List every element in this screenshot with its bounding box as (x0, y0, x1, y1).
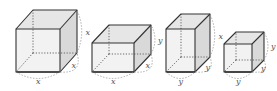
front-face (224, 44, 252, 72)
height-dimension-label: x (85, 28, 90, 37)
box-cube-y: yyy (224, 32, 276, 86)
depth-dimension-label: y (260, 64, 266, 73)
height-dimension-arc (210, 14, 215, 57)
boxes-diagram: xxxxxyyyxyyy (0, 0, 277, 91)
box-box-yyx: yyx (166, 14, 223, 86)
height-dimension-label: y (157, 36, 163, 45)
height-dimension-arc (151, 25, 155, 54)
bottom-dimension-label: x (36, 77, 41, 86)
height-dimension-label: y (270, 42, 276, 51)
figure-four-boxes: xxxxxyyyxyyy (0, 0, 277, 91)
front-face (92, 43, 134, 72)
bottom-dimension-label: x (111, 77, 116, 86)
depth-dimension-label: x (146, 61, 151, 70)
front-face (16, 29, 60, 72)
box-box-xxy: xxy (92, 25, 163, 86)
depth-dimension-label: x (72, 61, 77, 70)
bottom-dimension-label: y (178, 77, 184, 86)
box-cube-x: xxx (16, 10, 90, 86)
height-dimension-label: x (218, 32, 223, 41)
height-dimension-arc (77, 10, 82, 53)
depth-dimension-label: y (205, 63, 211, 72)
bottom-dimension-label: y (235, 77, 241, 86)
height-dimension-arc (264, 32, 268, 60)
